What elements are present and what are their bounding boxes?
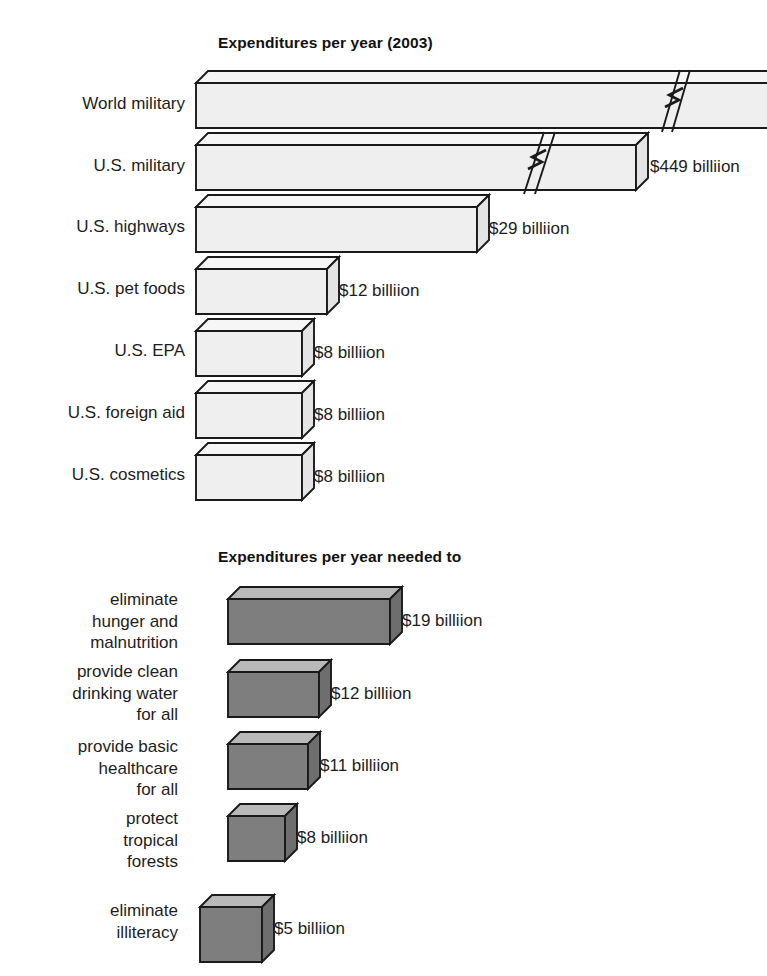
chart-1-bar-us-military: [196, 133, 648, 190]
bar-geometry-layer: [0, 0, 767, 976]
chart-2-bar-eliminate-hunger: [228, 587, 402, 644]
dual-bar-chart-figure: Expenditures per year (2003) Expenditure…: [0, 0, 767, 976]
chart-1-bar-us-highways: [196, 195, 489, 252]
chart-1-bar-us-foreign-aid: [196, 381, 314, 438]
chart-1-bar-us-cosmetics: [196, 443, 314, 500]
chart-1-bar-us-pet-foods: [196, 257, 339, 314]
chart-2-bar-eliminate-illiteracy: [200, 895, 274, 962]
chart-2-bar-basic-healthcare: [228, 732, 320, 789]
chart-1-bar-us-epa: [196, 319, 314, 376]
chart-2-bar-protect-tropical-forests: [228, 804, 297, 861]
chart-2-bar-clean-drinking-water: [228, 660, 331, 717]
